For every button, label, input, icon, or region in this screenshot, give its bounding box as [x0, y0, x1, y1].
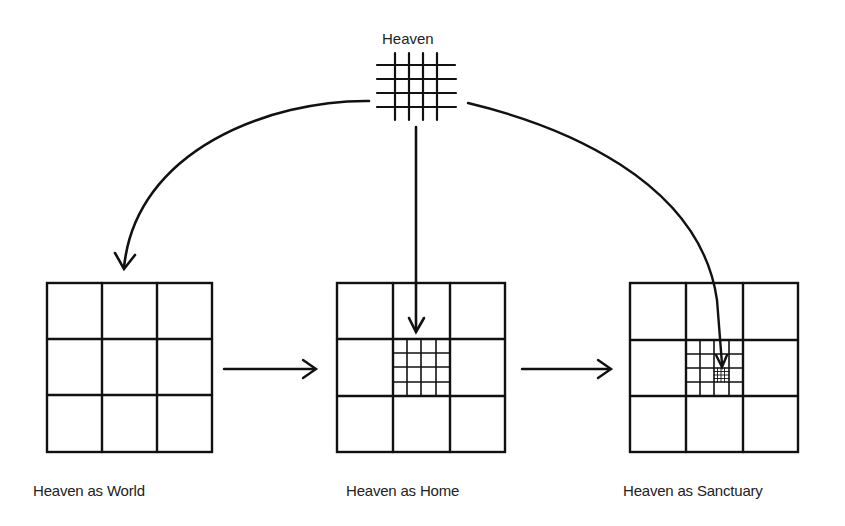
sanctuary-innermost-grid [714, 368, 729, 382]
home-inner-grid [393, 339, 450, 396]
sanctuary-inner-grid [686, 340, 743, 396]
world-grid [47, 283, 212, 452]
arrow-home-to-sanctuary [522, 360, 611, 378]
sanctuary-label: Heaven as Sanctuary [623, 482, 763, 499]
heaven-grid-icon [377, 53, 456, 120]
heaven-label: Heaven [382, 30, 434, 47]
arrow-world-to-home [224, 360, 316, 378]
arrow-heaven-to-world [115, 101, 369, 269]
home-label: Heaven as Home [346, 482, 459, 499]
arrow-heaven-to-sanctuary [468, 103, 727, 367]
diagram-canvas [0, 0, 845, 526]
world-label: Heaven as World [33, 482, 145, 499]
arrow-heaven-to-home [409, 127, 424, 332]
